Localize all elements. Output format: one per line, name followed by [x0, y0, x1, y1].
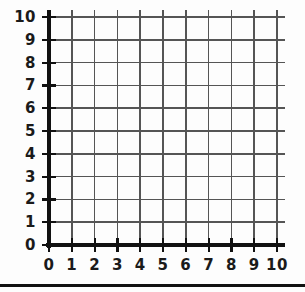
x-axis-label-10: 10 — [266, 258, 288, 273]
x-axis-label-8: 8 — [226, 258, 237, 273]
x-axis-label-1: 1 — [66, 258, 77, 273]
x-axis-label-7: 7 — [203, 258, 214, 273]
figure-background — [0, 0, 305, 292]
y-axis-label-0: 0 — [8, 238, 36, 253]
y-axis-label-1: 1 — [8, 215, 36, 230]
x-axis-label-6: 6 — [180, 258, 191, 273]
y-axis-label-10: 10 — [8, 10, 36, 25]
x-axis-label-0: 0 — [44, 258, 55, 273]
x-axis-label-9: 9 — [249, 258, 260, 273]
coordinate-grid-figure — [0, 0, 305, 292]
y-axis-label-4: 4 — [8, 146, 36, 161]
y-axis-label-8: 8 — [8, 55, 36, 70]
x-axis-label-4: 4 — [135, 258, 146, 273]
y-axis-label-6: 6 — [8, 101, 36, 116]
y-axis-label-3: 3 — [8, 169, 36, 184]
graph-page: 10 9 8 7 6 5 4 3 2 1 0 0 1 2 3 4 5 6 7 8… — [0, 0, 305, 292]
y-axis-label-9: 9 — [8, 32, 36, 47]
y-axis-label-2: 2 — [8, 192, 36, 207]
y-axis-label-7: 7 — [8, 78, 36, 93]
x-axis-label-3: 3 — [112, 258, 123, 273]
x-axis-label-5: 5 — [158, 258, 169, 273]
x-axis-label-2: 2 — [89, 258, 100, 273]
y-axis-label-5: 5 — [8, 124, 36, 139]
bottom-divider-rule — [0, 284, 305, 287]
